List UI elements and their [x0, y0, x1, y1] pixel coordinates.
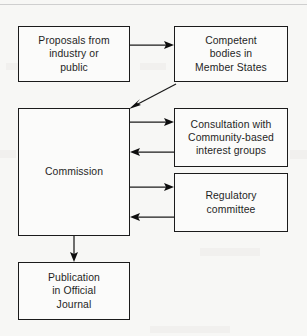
edge-regulatory-committee-to-commission — [130, 213, 174, 221]
edge-proposals-to-competent-bodies — [130, 41, 174, 49]
node-competent-bodies-label: Competent bodies in Member States — [195, 34, 267, 74]
edge-competent-bodies-to-commission — [129, 84, 176, 109]
node-publication-label: Publication in Official Journal — [48, 271, 100, 311]
node-consultation-label: Consultation with Community-based intere… — [188, 118, 274, 158]
node-regulatory-committee[interactable]: Regulatory committee — [174, 173, 288, 232]
edge-consultation-to-commission — [130, 148, 174, 156]
node-consultation[interactable]: Consultation with Community-based intere… — [174, 108, 288, 167]
node-regulatory-committee-label: Regulatory committee — [205, 189, 256, 215]
node-competent-bodies[interactable]: Competent bodies in Member States — [174, 26, 288, 82]
node-commission[interactable]: Commission — [18, 108, 130, 236]
edge-commission-to-publication — [70, 236, 78, 262]
edge-commission-to-regulatory-committee — [130, 183, 174, 191]
node-proposals[interactable]: Proposals from industry or public — [18, 26, 130, 82]
edge-commission-to-consultation — [130, 118, 174, 126]
flowchart-canvas: Proposals from industry or public Compet… — [0, 0, 307, 336]
node-publication[interactable]: Publication in Official Journal — [18, 262, 130, 320]
node-proposals-label: Proposals from industry or public — [38, 34, 109, 74]
node-commission-label: Commission — [45, 165, 103, 178]
